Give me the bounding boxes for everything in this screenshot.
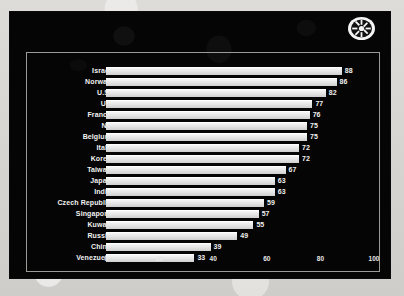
bar-rows: Israel 88 Norway 86 U.S. 82 UK 77 France	[27, 66, 379, 264]
bar	[106, 177, 275, 185]
bar-category-label: Czech Republic	[0, 197, 111, 208]
organization-logo-icon	[347, 16, 376, 41]
bar-value-label: 75	[310, 131, 318, 142]
bar-value-label: 63	[278, 186, 286, 197]
x-tick-label: 60	[263, 255, 270, 262]
bar-value-label: 77	[315, 98, 323, 109]
bar	[106, 133, 307, 141]
bar-category-label: France	[0, 109, 111, 120]
bar-value-label: 72	[302, 153, 310, 164]
bar-value-label: 75	[310, 120, 318, 131]
bar	[106, 243, 211, 251]
table-row: Venezuela 33	[27, 253, 379, 264]
bar-category-label: Kuwait	[0, 219, 111, 230]
bar-value-label: 82	[329, 87, 337, 98]
x-tick-label: 40	[210, 255, 217, 262]
x-tick-label: 0	[104, 255, 108, 262]
bar-category-label: Korea	[0, 153, 111, 164]
bar	[106, 221, 253, 229]
x-tick-label: 20	[156, 255, 163, 262]
bar	[106, 67, 342, 75]
bar-value-label: 86	[340, 76, 348, 87]
bar-category-label: Japan	[0, 175, 111, 186]
bar	[106, 155, 299, 163]
bar	[106, 232, 237, 240]
bar-category-label: Norway	[0, 76, 111, 87]
bar-value-label: 39	[214, 241, 222, 252]
x-tick-label: 100	[369, 255, 380, 262]
bar-value-label: 55	[256, 219, 264, 230]
bar-value-label: 88	[345, 65, 353, 76]
bar	[106, 100, 312, 108]
bar	[106, 188, 275, 196]
bar-category-label: NL	[0, 120, 111, 131]
bar-value-label: 63	[278, 175, 286, 186]
bar-value-label: 33	[197, 252, 205, 263]
bar-category-label: Venezuela	[0, 252, 111, 263]
bar	[106, 111, 310, 119]
bar-value-label: 72	[302, 142, 310, 153]
bar	[106, 89, 326, 97]
bar	[106, 254, 194, 262]
bar	[106, 210, 259, 218]
bar-category-label: Israel	[0, 65, 111, 76]
bar-value-label: 76	[313, 109, 321, 120]
x-tick-label: 80	[317, 255, 324, 262]
bar-category-label: UK	[0, 98, 111, 109]
bar-category-label: China	[0, 241, 111, 252]
bar	[106, 199, 264, 207]
bar-category-label: Italy	[0, 142, 111, 153]
bar-value-label: 49	[240, 230, 248, 241]
bar-category-label: India	[0, 186, 111, 197]
bar-category-label: Taiwan	[0, 164, 111, 175]
bar-value-label: 59	[267, 197, 275, 208]
bar-category-label: Russia	[0, 230, 111, 241]
bar-category-label: Belgium	[0, 131, 111, 142]
bar-value-label: 67	[289, 164, 297, 175]
bar-category-label: U.S.	[0, 87, 111, 98]
bar	[106, 122, 307, 130]
bar	[106, 144, 299, 152]
chart-panel: Israel 88 Norway 86 U.S. 82 UK 77 France	[10, 12, 390, 278]
bar	[106, 78, 337, 86]
bar	[106, 166, 286, 174]
x-axis: 0 20 40 60 80 100	[106, 252, 371, 253]
plot-area: Israel 88 Norway 86 U.S. 82 UK 77 France	[26, 52, 380, 272]
bar-value-label: 57	[262, 208, 270, 219]
bar-category-label: Singapore	[0, 208, 111, 219]
